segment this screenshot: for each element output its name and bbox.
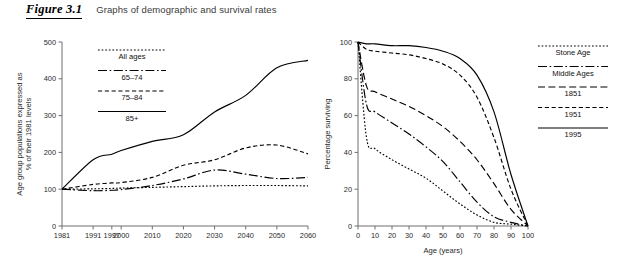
legend-label-65-74: 65–74 (121, 73, 142, 82)
legend-label-1951: 1951 (565, 110, 582, 119)
survival-x-axis-ticks: 0102030405060708090100 (356, 226, 534, 240)
series-line-1951 (358, 42, 528, 226)
svg-text:70: 70 (473, 231, 481, 240)
survival-legend: Stone AgeMiddle Ages185119511995 (538, 46, 608, 139)
svg-text:Age (years): Age (years) (423, 246, 463, 255)
svg-text:2040: 2040 (237, 231, 253, 240)
svg-text:400: 400 (44, 74, 56, 83)
svg-text:100: 100 (522, 231, 534, 240)
svg-text:90: 90 (507, 231, 515, 240)
svg-text:1991: 1991 (85, 231, 101, 240)
svg-text:500: 500 (44, 38, 56, 47)
svg-text:20: 20 (388, 231, 396, 240)
series-line-stone-age (358, 42, 528, 226)
legend-label-75-84: 75–84 (121, 93, 142, 102)
svg-text:20: 20 (344, 185, 352, 194)
svg-text:80: 80 (490, 231, 498, 240)
svg-text:2050: 2050 (269, 231, 285, 240)
figure-number: Figure 3.1 (26, 3, 82, 19)
svg-text:300: 300 (44, 111, 56, 120)
demographic-y-axis-ticks: 0100200300400500 (44, 38, 62, 231)
figure-caption: Graphs of demographic and survival rates (96, 4, 276, 15)
series-line-85- (62, 60, 308, 189)
demographic-chart: Age group populations expressed as% of t… (8, 30, 318, 271)
series-line-all-ages (62, 185, 308, 189)
svg-text:30: 30 (405, 231, 413, 240)
survival-chart-svg: Percentage surviving 020406080100 010203… (316, 30, 628, 271)
survival-y-axis-ticks: 020406080100 (340, 38, 358, 231)
svg-text:Percentage surviving: Percentage surviving (323, 99, 332, 170)
series-line-middle-ages (358, 42, 528, 226)
svg-text:2000: 2000 (113, 231, 129, 240)
figure-container: Figure 3.1 Graphs of demographic and sur… (0, 0, 628, 271)
survival-y-axis-title: Percentage surviving (323, 99, 332, 170)
svg-text:2010: 2010 (144, 231, 160, 240)
svg-text:100: 100 (340, 38, 352, 47)
demographic-y-axis-title: Age group populations expressed as% of t… (15, 72, 33, 195)
legend-label-1851: 1851 (565, 89, 582, 98)
svg-text:0: 0 (356, 231, 360, 240)
demographic-chart-svg: Age group populations expressed as% of t… (8, 30, 318, 271)
svg-text:0: 0 (348, 222, 352, 231)
survival-chart: Percentage surviving 020406080100 010203… (316, 30, 628, 271)
demographic-legend: All ages65–7475–8485+ (98, 50, 166, 123)
survival-axes (358, 42, 528, 226)
figure-header: Figure 3.1 Graphs of demographic and sur… (26, 3, 277, 19)
survival-series-group (358, 42, 528, 226)
demographic-series-group (62, 60, 308, 190)
legend-label-85-: 85+ (126, 114, 139, 123)
demographic-x-axis-ticks: 1981199119972000201020202030204020502060 (54, 226, 316, 240)
legend-label-middle-ages: Middle Ages (552, 69, 594, 78)
svg-text:0: 0 (52, 222, 56, 231)
svg-text:50: 50 (439, 231, 447, 240)
svg-text:100: 100 (44, 185, 56, 194)
series-line-75-84 (62, 145, 308, 189)
svg-text:2060: 2060 (300, 231, 316, 240)
series-line-1851 (358, 42, 528, 226)
series-line-1995 (358, 42, 528, 226)
svg-text:2020: 2020 (175, 231, 191, 240)
svg-text:40: 40 (422, 231, 430, 240)
svg-text:1981: 1981 (54, 231, 70, 240)
svg-text:60: 60 (456, 231, 464, 240)
legend-label-1995: 1995 (565, 130, 582, 139)
svg-text:10: 10 (371, 231, 379, 240)
svg-text:80: 80 (344, 74, 352, 83)
svg-text:40: 40 (344, 148, 352, 157)
legend-label-all-ages: All ages (118, 52, 145, 61)
series-line-65-74 (62, 170, 308, 191)
svg-text:2030: 2030 (206, 231, 222, 240)
survival-x-axis-title: Age (years) (423, 246, 463, 255)
legend-label-stone-age: Stone Age (555, 48, 590, 57)
svg-text:Age group populations expresse: Age group populations expressed as% of t… (15, 72, 33, 195)
svg-text:200: 200 (44, 148, 56, 157)
svg-text:60: 60 (344, 111, 352, 120)
